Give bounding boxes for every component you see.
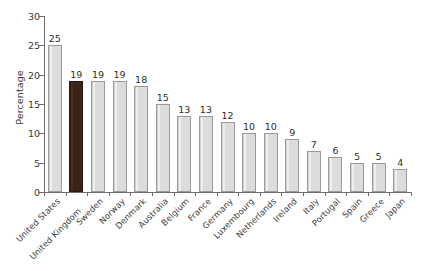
bar: 13 — [177, 116, 191, 192]
bar: 5 — [350, 163, 364, 192]
bar: 19 — [69, 81, 83, 192]
bar: 19 — [91, 81, 105, 192]
x-tick-mark — [130, 192, 131, 196]
x-tick-mark — [174, 192, 175, 196]
bar-value-label: 9 — [289, 127, 295, 138]
bar: 10 — [264, 133, 278, 192]
bar: 4 — [393, 169, 407, 192]
x-tick-mark — [325, 192, 326, 196]
bar: 13 — [199, 116, 213, 192]
bar-value-label: 18 — [135, 74, 147, 85]
bar-value-label: 12 — [221, 110, 233, 121]
bar-value-label: 15 — [157, 92, 169, 103]
y-tick-label: 5 — [34, 157, 40, 168]
bar-value-label: 4 — [397, 157, 403, 168]
y-tick-label: 30 — [28, 11, 40, 22]
bar: 25 — [48, 45, 62, 192]
bar-chart-figure: Percentage 051015202530 2519191918151313… — [0, 0, 429, 271]
x-tick-mark — [303, 192, 304, 196]
y-tick-label: 25 — [28, 40, 40, 51]
bar: 18 — [134, 86, 148, 192]
bar: 15 — [156, 104, 170, 192]
bar: 5 — [372, 163, 386, 192]
x-tick-mark — [260, 192, 261, 196]
bar-value-label: 19 — [92, 69, 104, 80]
y-axis-line — [44, 16, 45, 192]
x-tick-mark — [87, 192, 88, 196]
bar-value-label: 13 — [178, 104, 190, 115]
x-tick-mark — [389, 192, 390, 196]
bar: 12 — [221, 122, 235, 192]
x-tick-mark — [368, 192, 369, 196]
bar-value-label: 10 — [243, 121, 255, 132]
bar: 10 — [242, 133, 256, 192]
x-tick-mark — [238, 192, 239, 196]
bar-value-label: 5 — [376, 151, 382, 162]
x-tick-mark — [346, 192, 347, 196]
y-tick-label: 15 — [28, 99, 40, 110]
x-axis-label: Japan — [383, 196, 407, 220]
bar-value-label: 10 — [265, 121, 277, 132]
bar-value-label: 19 — [70, 69, 82, 80]
x-tick-mark — [411, 192, 412, 196]
y-tick-label: 10 — [28, 128, 40, 139]
bar-value-label: 6 — [332, 145, 338, 156]
bar-value-label: 25 — [49, 33, 61, 44]
x-tick-mark — [44, 192, 45, 196]
bar: 19 — [113, 81, 127, 192]
x-tick-mark — [195, 192, 196, 196]
bar: 9 — [285, 139, 299, 192]
bar: 7 — [307, 151, 321, 192]
x-tick-mark — [66, 192, 67, 196]
x-tick-mark — [109, 192, 110, 196]
bar-value-label: 19 — [114, 69, 126, 80]
x-tick-mark — [281, 192, 282, 196]
bar-value-label: 13 — [200, 104, 212, 115]
y-axis-title: Percentage — [14, 38, 25, 158]
y-tick-label: 0 — [34, 187, 40, 198]
x-axis-line — [44, 192, 411, 193]
plot-area: 051015202530 251919191815131312101097655… — [44, 16, 411, 192]
bar-value-label: 5 — [354, 151, 360, 162]
bar: 6 — [328, 157, 342, 192]
y-tick-label: 20 — [28, 69, 40, 80]
x-tick-mark — [217, 192, 218, 196]
x-tick-mark — [152, 192, 153, 196]
bar-value-label: 7 — [311, 139, 317, 150]
